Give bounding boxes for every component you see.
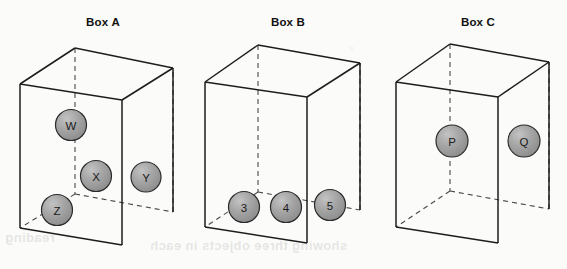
box-b-sphere-3-label: 3 [241,202,247,214]
box-c-sphere-q-label: Q [520,136,529,148]
box-b-sphere-3: 3 [229,192,260,223]
box-c-sphere-q: Q [508,125,540,157]
box-c-title: Box C [461,16,495,28]
box-a-sphere-y-label: Y [142,172,150,184]
box-c-sphere-p-label: P [448,136,456,148]
box-a-sphere-w: W [56,110,87,141]
box-a-sphere-x-label: X [92,171,100,183]
box-b-sphere-4-label: 4 [283,202,290,214]
box-a-sphere-x: X [81,161,112,192]
box-b-sphere-5: 5 [315,190,346,221]
box-a-title: Box A [86,16,120,28]
box-b: 345Box B [205,16,360,243]
box-c: PQBox C [396,16,549,243]
boxes-svg: WXYZBox A345Box BPQBox C [0,0,567,269]
box-a: WXYZBox A [20,16,173,245]
diagram-canvas: WXYZBox A345Box BPQBox C showing three o… [0,0,567,269]
box-a-sphere-z: Z [42,195,73,226]
box-b-sphere-4: 4 [271,192,302,223]
box-b-sphere-5-label: 5 [327,200,333,212]
box-c-sphere-p: P [436,125,468,157]
box-a-sphere-w-label: W [66,120,77,132]
box-c-front-face [396,82,498,243]
box-b-title: Box B [271,16,305,28]
box-a-sphere-y: Y [131,162,161,192]
box-a-sphere-z-label: Z [53,205,60,217]
